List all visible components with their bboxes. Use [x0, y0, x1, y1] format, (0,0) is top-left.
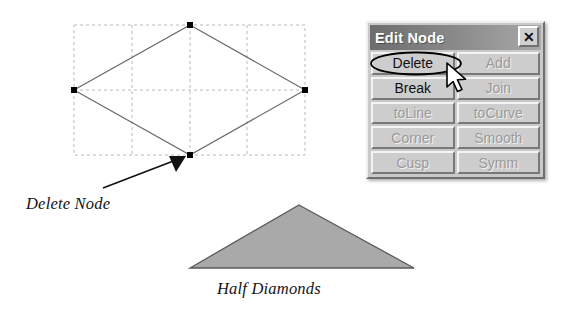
node-handle-right	[302, 87, 308, 93]
annotation-arrow	[103, 156, 186, 188]
node-handle-top	[187, 22, 193, 28]
edit-node-dialog: Edit Node ✕ DeleteAddBreakJointoLinetoCu…	[366, 21, 545, 179]
delete-node-caption: Delete Node	[26, 194, 110, 214]
to-curve-button: toCurve	[457, 102, 541, 125]
symm-button: Symm	[457, 151, 541, 174]
dialog-title: Edit Node	[370, 30, 444, 46]
screenshot-root: Delete Node Half Diamonds Edit Node ✕ De…	[0, 0, 577, 315]
node-handle-bottom	[187, 152, 193, 158]
corner-button: Corner	[371, 126, 455, 149]
add-button: Add	[457, 52, 541, 75]
construction-grid	[74, 25, 305, 155]
smooth-button: Smooth	[457, 126, 541, 149]
node-action-button-grid: DeleteAddBreakJointoLinetoCurveCornerSmo…	[371, 52, 540, 174]
to-line-button: toLine	[371, 102, 455, 125]
dialog-titlebar[interactable]: Edit Node ✕	[370, 25, 541, 50]
join-button: Join	[457, 77, 541, 100]
half-diamond-triangle	[190, 205, 414, 268]
delete-button[interactable]: Delete	[371, 52, 455, 75]
node-handle-left	[71, 87, 77, 93]
cusp-button: Cusp	[371, 151, 455, 174]
break-button[interactable]: Break	[371, 77, 455, 100]
close-icon[interactable]: ✕	[518, 26, 539, 47]
half-diamonds-caption: Half Diamonds	[217, 279, 321, 299]
